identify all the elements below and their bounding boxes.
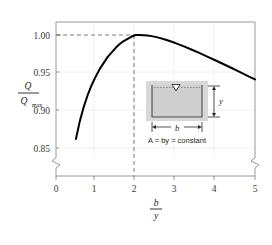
x-axis-title-denominator: y: [153, 211, 159, 221]
x-tick-label-4: 4: [212, 184, 217, 194]
y-axis-title-denominator-sub: max: [32, 102, 42, 108]
inset-width-label: b: [175, 123, 179, 133]
y-axis-title-numerator: Q: [25, 81, 32, 91]
y-tick-label-3: 0.85: [33, 144, 50, 154]
figure-container: 1.00 0.95 0.90 0.85 0 1 2 3 4 5: [0, 0, 272, 245]
x-tick-label-2: 2: [132, 184, 137, 194]
x-tick-label-3: 3: [172, 184, 177, 194]
y-axis-title-denominator: Q: [21, 96, 28, 106]
x-tick-label-0: 0: [54, 184, 59, 194]
x-axis-title-numerator: b: [154, 198, 159, 208]
y-tick-label-0: 1.00: [33, 31, 50, 41]
inset-depth-label: y: [218, 96, 223, 106]
y-tick-label-1: 0.95: [33, 68, 50, 78]
inset-equation: A = by = constant: [148, 136, 207, 145]
chart-svg: 1.00 0.95 0.90 0.85 0 1 2 3 4 5: [0, 0, 272, 245]
x-tick-label-1: 1: [92, 184, 97, 194]
x-tick-label-5: 5: [253, 184, 258, 194]
